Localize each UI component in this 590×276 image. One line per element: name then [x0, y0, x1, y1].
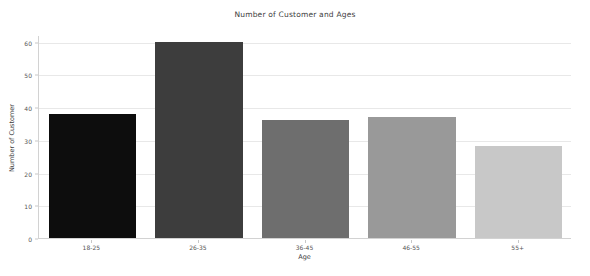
x-tick-mark [411, 240, 412, 243]
x-tick-mark [91, 240, 92, 243]
x-tick-label: 18-25 [83, 244, 100, 251]
x-tick-label: 26-35 [189, 244, 206, 251]
y-tick-label: 50 [24, 72, 32, 79]
plot-area [38, 36, 571, 239]
y-tick-label: 10 [24, 203, 32, 210]
x-tick-label: 46-55 [402, 244, 419, 251]
x-axis-label: Age [38, 253, 571, 261]
y-tick-label: 20 [24, 170, 32, 177]
y-tick-label: 0 [28, 236, 32, 243]
bar-26-35 [155, 42, 242, 238]
bar-46-55 [368, 117, 455, 238]
bars-layer [39, 36, 571, 238]
bar-55+ [475, 146, 562, 238]
x-tick-mark [198, 240, 199, 243]
x-tick-mark [305, 240, 306, 243]
x-tick-label: 36-45 [296, 244, 313, 251]
chart-figure: Number of Customer and Ages Number of Cu… [0, 0, 590, 276]
y-tick-label: 30 [24, 137, 32, 144]
chart-title: Number of Customer and Ages [0, 10, 590, 19]
bar-18-25 [49, 114, 136, 238]
y-tick-label: 60 [24, 39, 32, 46]
x-axis-tick-labels: 18-2526-3536-4546-5555+ [38, 240, 571, 254]
y-axis-tick-labels: 0102030405060 [0, 36, 38, 239]
y-tick-label: 40 [24, 105, 32, 112]
bar-36-45 [262, 120, 349, 238]
x-tick-label: 55+ [511, 244, 524, 251]
x-tick-mark [518, 240, 519, 243]
